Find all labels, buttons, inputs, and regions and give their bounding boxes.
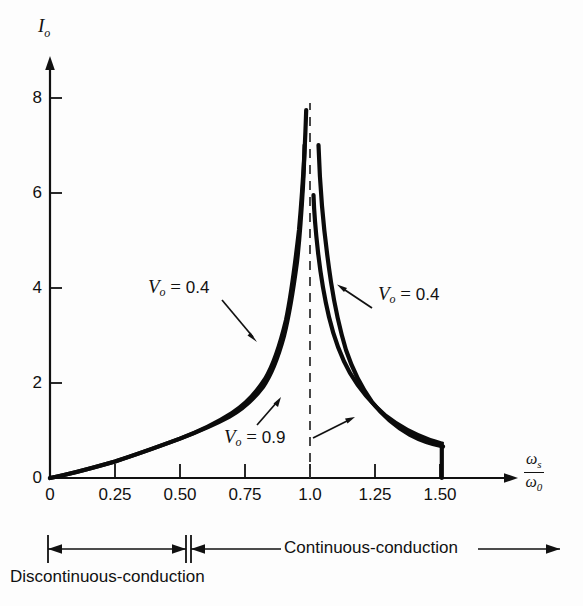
y-ticks [50, 98, 62, 478]
annotation-arrow-vo-04-left [222, 300, 257, 342]
x-tick-label-0: 0 [30, 486, 70, 503]
y-tick-label-6: 6 [8, 184, 42, 201]
y-tick-label-4: 4 [8, 279, 42, 296]
resonant-converter-output-current-chart [0, 0, 583, 606]
annotation-arrow-vo-09-right [313, 417, 355, 438]
region-label-continuous: Continuous-conduction [284, 539, 458, 556]
curve-vo-09-above-resonance [314, 195, 442, 478]
region-bracket-discontinuous [48, 535, 186, 563]
y-tick-label-0: 0 [8, 469, 42, 486]
x-axis-label-denominator: ω0 [524, 473, 544, 494]
axis-group [45, 56, 518, 483]
curve-label-vo-04-left: Vo = 0.4 [148, 277, 209, 298]
x-tick-label-1-0: 1.0 [286, 486, 334, 503]
x-tick-label-0-50: 0.50 [152, 486, 208, 503]
annotation-arrow-vo-09-left [257, 397, 281, 425]
curve-label-vo-04-right: Vo = 0.4 [378, 284, 439, 305]
x-tick-label-1-50: 1.50 [412, 486, 468, 503]
y-tick-label-2: 2 [8, 374, 42, 391]
y-axis-arrowhead [45, 56, 55, 70]
x-axis-arrowhead [504, 473, 518, 483]
x-axis-label-numerator: ωs [524, 451, 544, 473]
y-tick-label-8: 8 [8, 89, 42, 106]
annotation-arrow-vo-04-right [337, 285, 372, 309]
curve-label-vo-09-center: Vo = 0.9 [224, 427, 285, 448]
figure-container: Io 0 2 4 6 8 0 0.25 0.50 0.75 1.0 1.25 1… [0, 0, 583, 606]
x-tick-label-0-25: 0.25 [87, 486, 143, 503]
x-axis-label: ωs ω0 [524, 451, 544, 493]
region-label-discontinuous: Discontinuous-conduction [10, 568, 205, 585]
y-axis-label: Io [38, 16, 50, 39]
x-tick-label-1-25: 1.25 [347, 486, 403, 503]
x-ticks [50, 464, 440, 478]
x-tick-label-0-75: 0.75 [217, 486, 273, 503]
